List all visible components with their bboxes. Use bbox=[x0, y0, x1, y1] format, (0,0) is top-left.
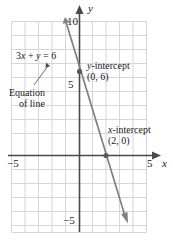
y-intercept-callout: y-intercept (0, 6) bbox=[87, 61, 130, 82]
y-intercept-word: -intercept bbox=[91, 60, 129, 71]
y-intercept-callout-line1: y-intercept bbox=[87, 61, 130, 72]
x-intercept-word: -intercept bbox=[112, 124, 150, 135]
tick-label-y-5: 5 bbox=[68, 79, 74, 91]
x-intercept-coords: (2, 0) bbox=[108, 136, 151, 147]
y-intercept-coords: (0, 6) bbox=[87, 72, 130, 83]
plotted-line bbox=[63, 17, 128, 224]
equation-leader-line bbox=[34, 63, 50, 86]
x-intercept-callout: x-intercept (2, 0) bbox=[108, 125, 151, 146]
equation-caption-line2: of line bbox=[19, 99, 45, 110]
tick-label-x-5: 5 bbox=[147, 158, 153, 170]
x-axis bbox=[8, 152, 161, 160]
x-intercept-dot bbox=[103, 153, 108, 158]
x-axis-label: x bbox=[162, 158, 167, 170]
y-intercept-dot bbox=[77, 69, 82, 74]
tick-label-y-10: 10 bbox=[67, 16, 78, 28]
equation-caption: Equation of line bbox=[9, 88, 45, 109]
tick-label-y-neg5: −5 bbox=[63, 215, 75, 227]
y-axis-label: y bbox=[88, 3, 93, 15]
equation-operator: + bbox=[25, 50, 36, 61]
equation-rhs: = 6 bbox=[41, 50, 57, 61]
x-intercept-callout-line1: x-intercept bbox=[108, 125, 151, 136]
graph-figure: y x 10 5 −5 −5 5 3x + y = 6 Equation of … bbox=[0, 0, 173, 241]
equation-label: 3x + y = 6 bbox=[16, 51, 56, 62]
coordinate-plane bbox=[0, 0, 173, 241]
equation-caption-line1: Equation bbox=[9, 88, 45, 99]
tick-label-x-neg5: −5 bbox=[7, 158, 19, 170]
